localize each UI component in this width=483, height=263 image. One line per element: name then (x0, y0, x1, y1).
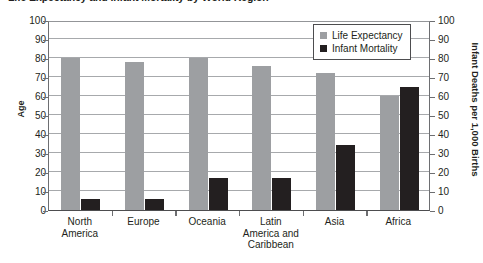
legend-item-infant: Infant Mortality (320, 42, 403, 55)
bar-life-expectancy-2 (189, 58, 208, 210)
y-tickmark-left-20 (43, 173, 48, 174)
y-tickmark-right-0 (430, 211, 435, 212)
y-tick-right-100: 100 (438, 16, 470, 26)
bar-infant-mortality-1 (145, 199, 164, 210)
x-label-line: America (43, 228, 117, 240)
gridline-40 (49, 133, 429, 134)
y-tick-right-60: 60 (438, 92, 470, 102)
x-label-4: Asia (298, 216, 372, 228)
x-axis-separator-5 (366, 211, 367, 216)
y-tickmark-right-90 (430, 40, 435, 41)
x-label-3: LatinAmerica andCaribbean (234, 216, 308, 251)
x-label-line: North (43, 216, 117, 228)
y-axis-right-title: Infant Deaths per 1,000 Births (470, 15, 481, 205)
y-tick-left-50: 50 (16, 111, 46, 121)
legend-swatch-infant-icon (320, 45, 327, 52)
y-tickmark-right-40 (430, 135, 435, 136)
y-tick-left-20: 20 (16, 168, 46, 178)
y-tickmark-right-60 (430, 97, 435, 98)
x-label-5: Africa (361, 216, 435, 228)
x-axis-separator-3 (239, 211, 240, 216)
y-tickmark-right-100 (430, 21, 435, 22)
y-tick-left-70: 70 (16, 73, 46, 83)
x-label-1: Europe (107, 216, 181, 228)
y-tickmark-left-100 (43, 21, 48, 22)
y-tick-right-50: 50 (438, 111, 470, 121)
bar-infant-mortality-2 (209, 178, 228, 210)
y-tick-right-40: 40 (438, 130, 470, 140)
y-tick-right-20: 20 (438, 168, 470, 178)
bar-infant-mortality-4 (336, 145, 355, 210)
y-tick-right-80: 80 (438, 54, 470, 64)
chart-container: Life Expectancy and Infant Mortality by … (0, 0, 483, 263)
y-tickmark-right-30 (430, 154, 435, 155)
y-tick-right-70: 70 (438, 73, 470, 83)
y-tick-left-90: 90 (16, 35, 46, 45)
x-label-line: Europe (107, 216, 181, 228)
gridline-30 (49, 152, 429, 153)
y-tickmark-left-60 (43, 97, 48, 98)
legend-label-infant: Infant Mortality (332, 44, 398, 54)
chart-legend: Life ExpectancyInfant Mortality (313, 24, 411, 60)
x-label-line: Caribbean (234, 239, 308, 251)
y-tick-left-80: 80 (16, 54, 46, 64)
y-tick-right-0: 0 (438, 206, 470, 216)
x-axis-separator-2 (175, 211, 176, 216)
y-tickmark-left-50 (43, 116, 48, 117)
y-tickmark-right-10 (430, 192, 435, 193)
legend-swatch-life-icon (320, 32, 327, 39)
bar-life-expectancy-3 (252, 66, 271, 210)
x-axis-separator-1 (112, 211, 113, 216)
gridline-70 (49, 76, 429, 77)
y-tickmark-left-0 (43, 211, 48, 212)
gridline-20 (49, 171, 429, 172)
gridline-10 (49, 190, 429, 191)
y-tickmark-left-30 (43, 154, 48, 155)
bar-life-expectancy-0 (61, 58, 80, 210)
y-tick-left-10: 10 (16, 187, 46, 197)
x-axis-separator-4 (303, 211, 304, 216)
chart-title: Life Expectancy and Infant Mortality by … (8, 0, 428, 3)
x-label-line: Asia (298, 216, 372, 228)
bar-infant-mortality-5 (400, 87, 419, 211)
y-tick-left-100: 100 (16, 16, 46, 26)
y-tick-right-30: 30 (438, 149, 470, 159)
y-tickmark-right-20 (430, 173, 435, 174)
y-tickmark-left-10 (43, 192, 48, 193)
y-tickmark-right-70 (430, 78, 435, 79)
y-tickmark-left-90 (43, 40, 48, 41)
bar-infant-mortality-3 (272, 178, 291, 210)
x-label-2: Oceania (170, 216, 244, 228)
y-tickmark-left-80 (43, 59, 48, 60)
y-tickmark-right-80 (430, 59, 435, 60)
gridline-50 (49, 114, 429, 115)
gridline-60 (49, 95, 429, 96)
y-tick-right-10: 10 (438, 187, 470, 197)
y-tick-left-30: 30 (16, 149, 46, 159)
x-label-line: Oceania (170, 216, 244, 228)
y-tick-left-60: 60 (16, 92, 46, 102)
y-tick-left-0: 0 (16, 206, 46, 216)
x-label-line: Africa (361, 216, 435, 228)
legend-item-life: Life Expectancy (320, 29, 403, 42)
legend-label-life: Life Expectancy (332, 31, 403, 41)
bar-life-expectancy-5 (380, 96, 399, 210)
x-label-0: NorthAmerica (43, 216, 117, 239)
y-tick-left-40: 40 (16, 130, 46, 140)
bar-infant-mortality-0 (81, 199, 100, 210)
y-tickmark-right-50 (430, 116, 435, 117)
y-tickmark-left-40 (43, 135, 48, 136)
bar-life-expectancy-4 (316, 73, 335, 210)
y-tickmark-left-70 (43, 78, 48, 79)
x-label-line: Latin (234, 216, 308, 228)
x-label-line: America and (234, 228, 308, 240)
y-tick-right-90: 90 (438, 35, 470, 45)
bar-life-expectancy-1 (125, 62, 144, 210)
